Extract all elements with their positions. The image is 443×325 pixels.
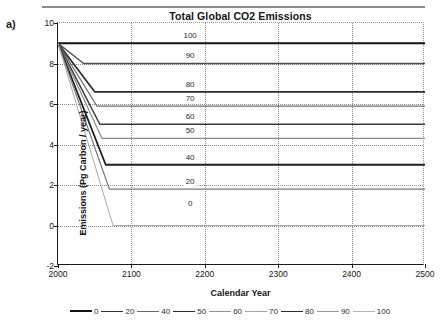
legend-label-80: 80 — [305, 307, 314, 316]
curve-label-100: 100 — [181, 32, 198, 40]
chart-title: Total Global CO2 Emissions — [57, 10, 424, 22]
series-line-0 — [58, 43, 425, 225]
curve-label-20: 20 — [184, 178, 197, 186]
legend-label-20: 20 — [125, 307, 134, 316]
legend-item-100[interactable]: 100 — [353, 307, 393, 316]
x-axis-tick-label: 2300 — [269, 269, 288, 279]
legend-swatch-60 — [209, 311, 231, 312]
legend-item-0[interactable]: 0 — [70, 307, 101, 316]
legend-label-40: 40 — [161, 307, 170, 316]
y-axis-tick-label: 10 — [45, 18, 54, 28]
legend-swatch-20 — [101, 311, 123, 312]
legend-label-0: 0 — [94, 307, 98, 316]
legend-swatch-100 — [353, 311, 375, 312]
series-line-80 — [58, 43, 425, 92]
legend-item-50[interactable]: 50 — [173, 307, 209, 316]
legend-label-60: 60 — [233, 307, 242, 316]
legend-swatch-0 — [70, 310, 92, 312]
legend-item-90[interactable]: 90 — [317, 307, 353, 316]
x-axis-title: Calendar Year — [57, 288, 424, 298]
header-rule — [42, 6, 425, 8]
curve-label-60: 60 — [184, 113, 197, 121]
panel-label: a) — [6, 18, 16, 30]
legend-item-40[interactable]: 40 — [137, 307, 173, 316]
curve-label-40: 40 — [184, 154, 197, 162]
legend-label-50: 50 — [197, 307, 206, 316]
y-axis-tick-label: 8 — [49, 59, 54, 69]
legend-item-20[interactable]: 20 — [101, 307, 137, 316]
curve-label-70: 70 — [184, 95, 197, 103]
curve-label-90: 90 — [184, 52, 197, 60]
legend-swatch-40 — [137, 311, 159, 312]
series-line-70 — [58, 43, 425, 106]
x-axis-tick-label: 2000 — [49, 269, 68, 279]
legend-swatch-90 — [317, 311, 339, 312]
legend-label-70: 70 — [269, 307, 278, 316]
y-axis-tick-label: 0 — [49, 221, 54, 231]
figure-panel-a: a) Total Global CO2 Emissions 1086420-22… — [0, 0, 443, 325]
y-axis-title: Emissions (Pg Carbon / year) — [78, 88, 88, 258]
legend-item-70[interactable]: 70 — [245, 307, 281, 316]
x-axis-tick-mark — [425, 264, 426, 268]
y-axis-tick-label: 2 — [49, 180, 54, 190]
x-axis-tick-label: 2500 — [416, 269, 435, 279]
series-line-90 — [58, 43, 425, 63]
curve-label-80: 80 — [184, 81, 197, 89]
curve-label-50: 50 — [184, 127, 197, 135]
legend-swatch-50 — [173, 311, 195, 312]
x-axis-tick-label: 2100 — [122, 269, 141, 279]
legend-item-80[interactable]: 80 — [281, 307, 317, 316]
x-axis-tick-label: 2400 — [342, 269, 361, 279]
chart-legend: 020405060708090100 — [70, 303, 435, 319]
x-axis-tick-label: 2200 — [195, 269, 214, 279]
legend-label-90: 90 — [341, 307, 350, 316]
legend-label-100: 100 — [377, 307, 390, 316]
legend-swatch-70 — [245, 311, 267, 312]
series-layer — [58, 23, 425, 266]
series-line-20 — [58, 43, 425, 189]
series-line-60 — [58, 43, 425, 124]
curve-label-0: 0 — [186, 200, 194, 208]
series-line-40 — [58, 43, 425, 165]
y-axis-tick-label: 4 — [49, 140, 54, 150]
plot-area: 1086420-2200021002200230024002500 100908… — [57, 22, 424, 265]
legend-item-60[interactable]: 60 — [209, 307, 245, 316]
legend-swatch-80 — [281, 311, 303, 312]
y-axis-tick-label: 6 — [49, 99, 54, 109]
